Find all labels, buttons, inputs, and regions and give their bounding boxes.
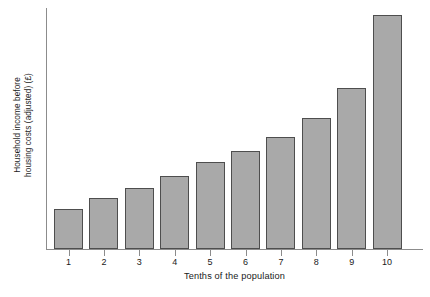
x-axis-tick-label: 5 xyxy=(195,257,225,267)
x-axis-tick xyxy=(139,250,140,256)
bar-chart-figure: Household income before housing costs (a… xyxy=(0,0,430,297)
y-axis-title-text: Household income before housing costs (a… xyxy=(12,73,34,177)
x-axis-tick-label: 2 xyxy=(89,257,119,267)
y-axis-title-line-1: Household income before xyxy=(12,73,23,177)
x-axis-tick xyxy=(281,250,282,256)
x-axis-line xyxy=(46,249,423,250)
x-axis-tick xyxy=(69,250,70,256)
x-axis-tick-label: 9 xyxy=(337,257,367,267)
bar xyxy=(231,151,260,249)
bar xyxy=(89,198,118,249)
x-axis-tick xyxy=(175,250,176,256)
x-axis-tick-label: 10 xyxy=(372,257,402,267)
bar xyxy=(160,176,189,249)
bar xyxy=(373,15,402,249)
x-axis-tick-label: 1 xyxy=(54,257,84,267)
x-axis-tick-label: 3 xyxy=(124,257,154,267)
x-axis-tick-label: 6 xyxy=(231,257,261,267)
bar xyxy=(266,137,295,249)
x-axis-title: Tenths of the population xyxy=(46,271,423,281)
x-axis-tick xyxy=(352,250,353,256)
x-axis-tick xyxy=(246,250,247,256)
y-axis-title-line-2: housing costs (adjusted) (£) xyxy=(23,73,34,177)
x-axis-tick-label: 8 xyxy=(301,257,331,267)
x-axis-tick xyxy=(104,250,105,256)
x-axis-tick-label: 4 xyxy=(160,257,190,267)
bar xyxy=(196,162,225,249)
y-axis-title: Household income before housing costs (a… xyxy=(0,0,46,250)
x-axis-tick xyxy=(210,250,211,256)
x-axis-tick xyxy=(316,250,317,256)
bar-series xyxy=(46,8,423,249)
bar xyxy=(54,209,83,249)
bar xyxy=(302,118,331,249)
x-axis-tick xyxy=(387,250,388,256)
bar xyxy=(337,88,366,249)
x-axis-tick-label: 7 xyxy=(266,257,296,267)
bar xyxy=(125,188,154,249)
